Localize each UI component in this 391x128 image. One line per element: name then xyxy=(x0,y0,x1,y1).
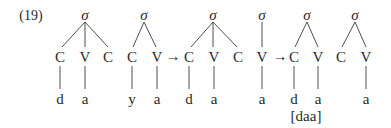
arrow-icon: → xyxy=(166,49,181,64)
segment: d xyxy=(185,92,193,107)
segment: a xyxy=(154,92,161,107)
sigma-node: σ xyxy=(81,8,88,23)
sigma-node: σ xyxy=(258,8,265,23)
segment: y xyxy=(128,92,136,107)
skeleton-v: V xyxy=(361,50,372,65)
skeleton-v: V xyxy=(257,50,268,65)
segment: a xyxy=(82,92,89,107)
sigma-node: σ xyxy=(209,8,216,23)
sigma-node: σ xyxy=(303,8,310,23)
skeleton-c: C xyxy=(233,50,243,65)
skeleton-v: V xyxy=(80,50,91,65)
segment: d xyxy=(290,92,298,107)
segment: a xyxy=(363,92,370,107)
skeleton-v: V xyxy=(313,50,324,65)
output-transcription: [daa] xyxy=(291,109,322,124)
segment: d xyxy=(56,92,64,107)
skeleton-c: C xyxy=(55,50,65,65)
skeleton-v: V xyxy=(209,50,220,65)
skeleton-c: C xyxy=(184,50,194,65)
skeleton-c: C xyxy=(336,50,346,65)
skeleton-c: C xyxy=(127,50,137,65)
segment: a xyxy=(315,92,322,107)
sigma-node: σ xyxy=(351,8,358,23)
skeleton-c: C xyxy=(103,50,113,65)
arrow-icon: → xyxy=(273,49,288,64)
example-number: (19) xyxy=(19,9,42,23)
skeleton-c: C xyxy=(289,50,299,65)
segment: a xyxy=(211,92,218,107)
segment: a xyxy=(259,92,266,107)
skeleton-v: V xyxy=(152,50,163,65)
sigma-node: σ xyxy=(140,8,147,23)
